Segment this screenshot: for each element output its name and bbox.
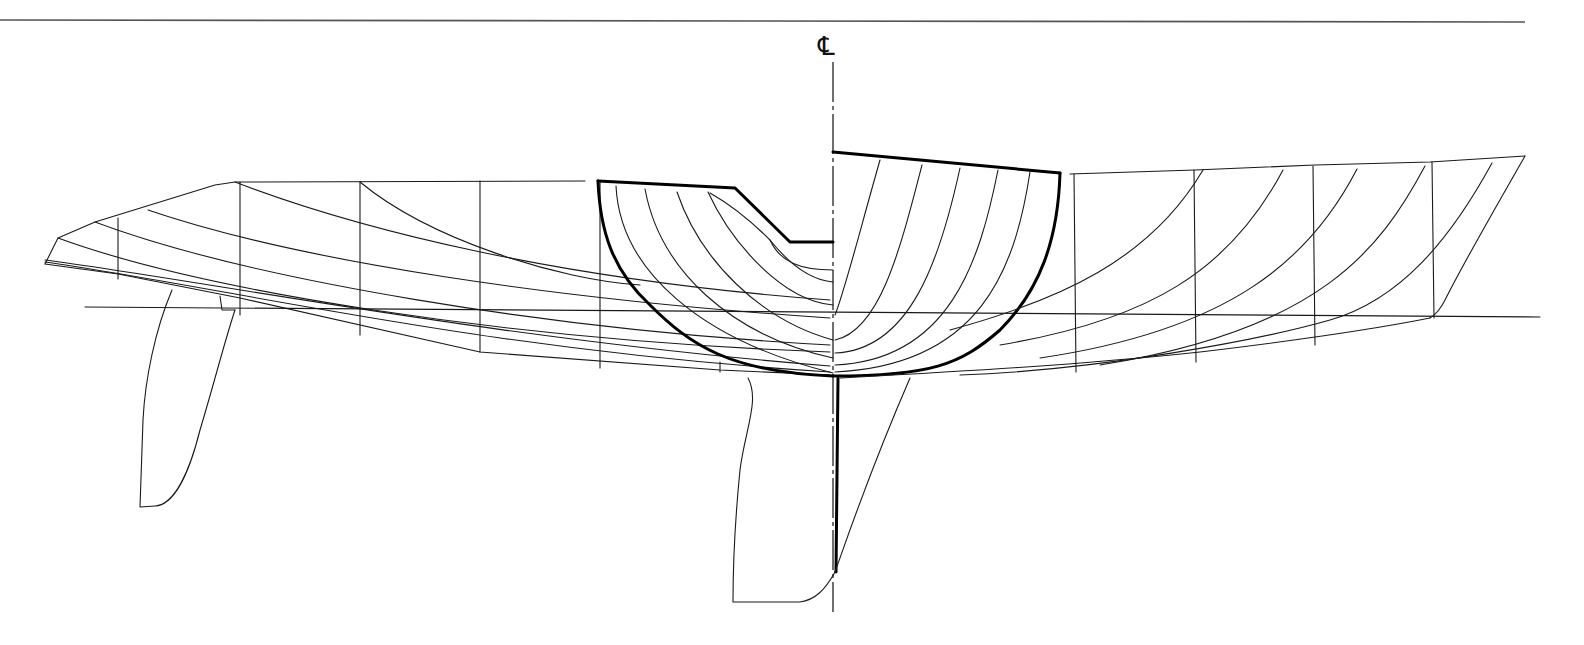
aft-profile [45, 181, 830, 507]
top-border-line [0, 20, 1525, 22]
keel [835, 378, 910, 572]
centerline-symbol: ℄ [818, 33, 835, 59]
body-plan [598, 152, 1060, 602]
forward-profile [840, 156, 1525, 378]
lines-plan-drawing [0, 0, 1584, 645]
rudder [140, 290, 235, 507]
